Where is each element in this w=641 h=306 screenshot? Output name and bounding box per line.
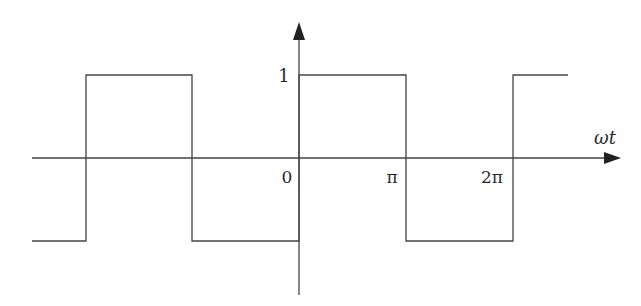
x-axis-arrow-icon: [604, 152, 621, 164]
x-axis-label: ωt: [594, 127, 617, 148]
y-tick-label-1: 1: [278, 65, 289, 86]
x-tick-label-2pi: 2π: [481, 167, 503, 187]
x-tick-label-0: 0: [282, 167, 293, 187]
x-tick-label-pi: π: [386, 167, 397, 187]
diagram-svg: 1 0 π 2π ωt: [0, 0, 641, 306]
square-wave-diagram: 1 0 π 2π ωt: [0, 0, 641, 306]
y-axis-arrow-icon: [293, 22, 305, 40]
